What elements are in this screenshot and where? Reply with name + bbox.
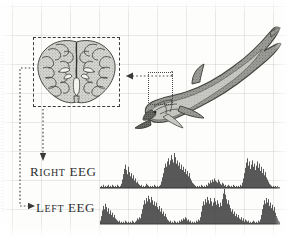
brain-cross-section-icon: [34, 38, 119, 106]
eeg-figure: RIGHT EEG LEFT EEG: [0, 0, 287, 237]
right-eeg-label-suffix: EEG: [69, 164, 96, 179]
eeg-row-left: LEFT EEG: [0, 186, 287, 232]
left-eeg-trace: [100, 186, 280, 232]
left-eeg-label: LEFT EEG: [36, 200, 95, 216]
left-eeg-label-suffix: EEG: [68, 200, 95, 215]
right-eeg-label-rest: IGHT: [39, 167, 65, 178]
left-eeg-label-rest: EFT: [45, 203, 65, 214]
right-eeg-label-initial: R: [30, 164, 39, 179]
left-eeg-label-initial: L: [36, 200, 45, 215]
right-eeg-label: RIGHT EEG: [30, 164, 97, 180]
connector-dolphin-to-brain-icon: [118, 70, 174, 82]
